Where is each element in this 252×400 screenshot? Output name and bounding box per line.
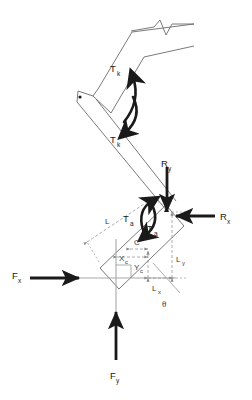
- upper-member-top-edge: [93, 24, 194, 96]
- knee-block-edge-b: [77, 91, 78, 102]
- label-Ry-sub: y: [168, 165, 172, 173]
- upper-member-bottom-edge: [111, 46, 194, 113]
- label-Rx: R: [220, 211, 227, 222]
- label-Ta-upper: T: [123, 213, 129, 224]
- Tk-lower-curved-arrow: [125, 97, 137, 133]
- label-Yc-sub: c: [140, 268, 143, 274]
- lower-member-shank: [77, 99, 176, 211]
- label-Tk-upper: T: [110, 63, 116, 74]
- label-Fx-sub: x: [18, 277, 22, 284]
- dimension-L-ext-a: [87, 242, 99, 262]
- knee-block-edge-a: [78, 91, 93, 96]
- label-Tk-upper-sub: k: [117, 70, 121, 77]
- label-L: L: [105, 217, 110, 226]
- zigzag-beam-break-icon: [131, 20, 194, 35]
- reference-axes: [76, 239, 176, 330]
- shank-left-edge: [77, 102, 167, 211]
- label-Lx-sub: x: [158, 289, 161, 295]
- label-Ly-sub: y: [182, 260, 185, 266]
- label-Fy-sub: y: [116, 377, 120, 385]
- label-Ly: L: [176, 255, 181, 264]
- free-body-diagram: T k T k R y R x F x F y T a T a L C X c …: [0, 0, 252, 400]
- label-Ry: R: [161, 158, 168, 169]
- label-C: C: [134, 238, 140, 247]
- diagram-labels: T k T k R y R x F x F y T a T a L C X c …: [12, 63, 231, 385]
- break-zigzag-path: [131, 20, 194, 35]
- label-Tk-lower-sub: k: [117, 141, 121, 148]
- label-Tk-lower: T: [110, 134, 116, 145]
- dimension-L-line: [87, 198, 153, 242]
- label-Ta-lower-sub: a: [154, 230, 158, 237]
- upper-member-end-cap: [93, 96, 111, 113]
- label-Ta-upper-sub: a: [130, 220, 134, 227]
- label-Lx: L: [152, 284, 157, 293]
- label-Ta-lower: T: [147, 223, 153, 234]
- moment-couple-Tk: [124, 77, 137, 133]
- hinge-pin-dot-icon: [78, 95, 81, 98]
- label-Rx-sub: x: [227, 218, 231, 225]
- right-angle-tick: [116, 265, 131, 278]
- label-Xc-sub: c: [125, 259, 128, 265]
- label-theta: θ: [162, 299, 166, 309]
